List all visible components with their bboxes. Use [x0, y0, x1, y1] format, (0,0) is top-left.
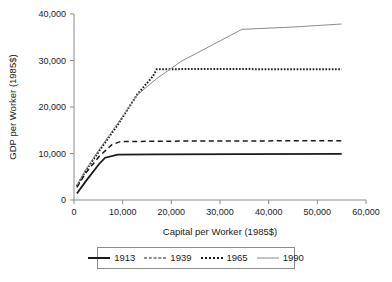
series-line-1990 — [77, 24, 342, 185]
y-axis-tick-label: 40,000 — [38, 9, 66, 19]
y-axis-ticks — [70, 14, 74, 200]
legend-label-1939: 1939 — [170, 253, 191, 263]
legend-entry-1990[interactable]: 1990 — [257, 253, 304, 263]
legend-label-1965: 1965 — [227, 253, 248, 263]
x-axis-title: Capital per Worker (1985$) — [163, 226, 277, 237]
y-axis-tick-labels: 010,00020,00030,00040,000 — [38, 9, 66, 205]
x-axis-tick-label: 40,000 — [255, 207, 283, 217]
legend-swatch-1965 — [201, 254, 223, 262]
series-line-1913 — [77, 154, 342, 194]
x-axis-tick-label: 60,000 — [352, 207, 380, 217]
y-axis-title: GDP per Worker (1985$) — [7, 54, 18, 159]
x-axis-tick-label: 10,000 — [109, 207, 137, 217]
x-axis-tick-label: 50,000 — [304, 207, 332, 217]
line-chart-plot: 010,00020,00030,00040,000 010,00020,0003… — [0, 0, 392, 282]
legend-label-1990: 1990 — [283, 253, 304, 263]
x-axis-ticks — [74, 200, 366, 204]
x-axis-tick-label: 30,000 — [206, 207, 234, 217]
legend-swatch-1939 — [144, 254, 166, 262]
legend-entry-1913[interactable]: 1913 — [88, 253, 135, 263]
legend-swatch-1913 — [88, 254, 110, 262]
y-axis-tick-label: 10,000 — [38, 149, 66, 159]
legend-entry-1939[interactable]: 1939 — [144, 253, 191, 263]
series-line-1965 — [77, 69, 342, 186]
y-axis-tick-label: 0 — [61, 195, 66, 205]
legend-items: 1913193919651990 — [88, 253, 304, 263]
axis-lines — [74, 14, 366, 200]
legend-swatch-1990 — [257, 254, 279, 262]
x-axis-tick-labels: 010,00020,00030,00040,00050,00060,000 — [71, 207, 379, 217]
x-axis-tick-label: 0 — [71, 207, 76, 217]
legend-label-1913: 1913 — [114, 253, 135, 263]
legend-entry-1965[interactable]: 1965 — [201, 253, 248, 263]
data-series-group — [77, 24, 342, 193]
x-axis-tick-label: 20,000 — [158, 207, 186, 217]
chart-figure: 010,00020,00030,00040,000 010,00020,0003… — [0, 0, 392, 282]
chart-legend: 1913193919651990 — [97, 247, 295, 269]
y-axis-tick-label: 30,000 — [38, 56, 66, 66]
series-line-1939 — [77, 141, 342, 188]
y-axis-tick-label: 20,000 — [38, 102, 66, 112]
